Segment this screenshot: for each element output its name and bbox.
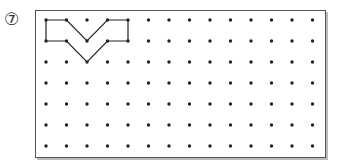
grid-dot [106,60,109,63]
grid-dot [106,81,109,84]
grid-dot [147,81,150,84]
grid-dot [208,18,211,21]
grid-dot [126,123,129,126]
dot-grid-canvas [0,0,338,164]
grid-dot [188,60,191,63]
grid-dot [44,60,47,63]
grid-dot [249,102,252,105]
grid-dot [188,144,191,147]
grid-dot [270,39,273,42]
grid-dot [106,123,109,126]
grid-dot [65,123,68,126]
grid-dot [85,102,88,105]
grid-dot [85,60,88,63]
grid-dot [167,144,170,147]
grid-dot [249,60,252,63]
grid-dot [44,102,47,105]
grid-dot [85,144,88,147]
grid-dot [65,60,68,63]
grid-dot [147,123,150,126]
grid-dot [249,123,252,126]
grid-dot [65,81,68,84]
grid-dot [290,81,293,84]
grid-dot [311,102,314,105]
grid-dot [229,18,232,21]
grid-dot [126,81,129,84]
grid-dot [85,81,88,84]
grid-dot [249,39,252,42]
grid-dot [270,81,273,84]
grid-dot [65,39,68,42]
grid-dot [65,144,68,147]
grid-dot [229,144,232,147]
grid-dot [167,39,170,42]
grid-dot [44,144,47,147]
grid-dot [188,123,191,126]
grid-dot [106,39,109,42]
grid-dot [311,60,314,63]
grid-dot [106,18,109,21]
grid-dot [44,123,47,126]
grid-dot [147,102,150,105]
grid-dot [290,18,293,21]
grid-dot [126,102,129,105]
grid-dot [290,39,293,42]
grid-dot [311,81,314,84]
grid-dot [85,18,88,21]
grid-dot [106,102,109,105]
grid-dot [44,81,47,84]
grid-dot [290,123,293,126]
grid-dot [167,123,170,126]
grid-dot [208,60,211,63]
grid-dot [270,60,273,63]
grid-dot [208,102,211,105]
grid-dot [311,18,314,21]
grid-dot [311,39,314,42]
grid-dot [208,144,211,147]
grid-dot [167,60,170,63]
grid-dot [147,60,150,63]
grid-dot [229,60,232,63]
grid-dot [229,81,232,84]
grid-dot [65,102,68,105]
grid-dot [65,18,68,21]
grid-dot [229,123,232,126]
grid-dot [147,144,150,147]
grid-dot [188,39,191,42]
grid-dot [229,39,232,42]
grid-dot [229,102,232,105]
grid-dot [188,18,191,21]
grid-dot [270,102,273,105]
grid-dot [208,123,211,126]
grid-dot [290,60,293,63]
grid-dot [208,81,211,84]
grid-dot [85,123,88,126]
grid-dot [167,18,170,21]
grid-dot [85,39,88,42]
grid-dot [44,39,47,42]
grid-dot [44,18,47,21]
grid-dot [270,123,273,126]
grid-dot [311,123,314,126]
grid-dot [126,39,129,42]
grid-dot [167,81,170,84]
grid-dot [208,39,211,42]
grid-dot [290,144,293,147]
grid-dot [147,39,150,42]
grid-dot [290,102,293,105]
grid-dot [249,18,252,21]
grid-dot [147,18,150,21]
grid-dot [188,102,191,105]
grid-dot [249,81,252,84]
grid-dot [270,18,273,21]
grid-dot [126,144,129,147]
grid-dot [270,144,273,147]
grid-dot [249,144,252,147]
grid-dot [311,144,314,147]
grid-dot [188,81,191,84]
grid-dot [167,102,170,105]
grid-dot [106,144,109,147]
grid-dot [126,60,129,63]
grid-dot [126,18,129,21]
